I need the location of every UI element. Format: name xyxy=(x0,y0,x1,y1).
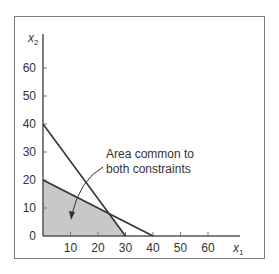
chart-svg: 0 10 20 30 40 50 60 10 20 30 40 50 60 x2… xyxy=(0,0,279,274)
y-tick-label: 40 xyxy=(23,117,37,131)
x-tick-label: 50 xyxy=(174,241,188,255)
x-tick-label: 40 xyxy=(146,241,160,255)
y-tick-label: 10 xyxy=(23,201,37,215)
y-tick-label: 0 xyxy=(29,229,36,243)
y-tick-label: 60 xyxy=(23,61,37,75)
y-tick-label: 30 xyxy=(23,145,37,159)
feasible-region xyxy=(43,180,126,236)
x-tick-label: 60 xyxy=(201,241,215,255)
x-tick-label: 30 xyxy=(119,241,133,255)
annotation-line-1: Area common to xyxy=(106,147,194,161)
y-axis-label: x2 xyxy=(27,31,39,47)
x-axis-label: x1 xyxy=(232,241,244,257)
annotation-line-2: both constraints xyxy=(106,162,191,176)
x-tick-label: 20 xyxy=(91,241,105,255)
y-tick-label: 20 xyxy=(23,173,37,187)
y-tick-label: 50 xyxy=(23,89,37,103)
x-tick-label: 10 xyxy=(64,241,78,255)
